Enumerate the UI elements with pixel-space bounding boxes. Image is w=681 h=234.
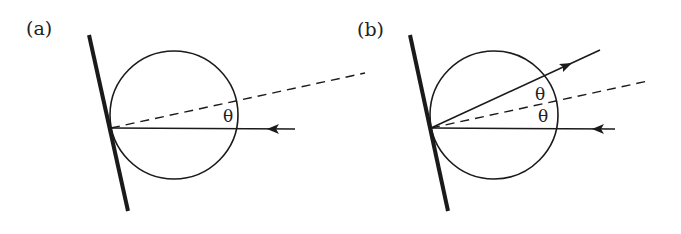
panel-a: (a) θ: [26, 17, 365, 211]
incident-ray: [431, 128, 615, 129]
panel-a-label: (a): [26, 17, 52, 39]
theta-label-upper: θ: [535, 84, 545, 104]
theta-label: θ: [223, 106, 233, 126]
theta-label-lower: θ: [538, 106, 548, 126]
figure-canvas: (a) θ (b) θ θ: [0, 0, 681, 234]
reflected-ray: [431, 50, 600, 128]
panel-b: (b) θ θ: [357, 18, 648, 211]
wall-line: [89, 35, 128, 211]
panel-b-label: (b): [357, 18, 384, 40]
